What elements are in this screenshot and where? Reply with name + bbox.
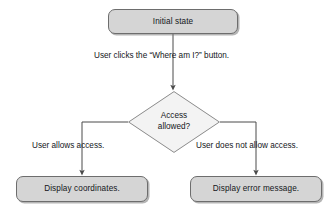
edge-label-decision-to-error: User does not allow access. xyxy=(196,141,298,150)
node-display-coordinates[interactable]: Display coordinates. xyxy=(16,176,148,202)
node-display-coordinates-label: Display coordinates. xyxy=(44,184,120,193)
node-display-error-label: Display error message. xyxy=(213,184,299,193)
node-initial-state[interactable]: Initial state xyxy=(108,9,238,34)
node-access-allowed-label-line2: allowed? xyxy=(158,122,190,133)
flowchart-canvas: Initial state User clicks the “Where am … xyxy=(0,0,336,212)
node-initial-state-label: Initial state xyxy=(153,17,193,26)
edge-label-initial-to-decision: User clicks the “Where am I?” button. xyxy=(94,51,229,60)
edge-label-decision-to-coordinates: User allows access. xyxy=(32,141,104,150)
node-access-allowed-label-line1: Access xyxy=(161,111,187,122)
node-display-error[interactable]: Display error message. xyxy=(190,176,322,202)
